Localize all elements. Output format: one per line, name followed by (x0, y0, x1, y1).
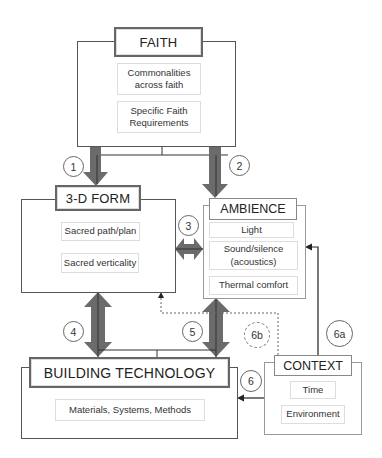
arrow-4 (84, 292, 112, 357)
link-label-3: 3 (178, 215, 199, 236)
ambience-title: AMBIENCE (209, 198, 297, 220)
arrow-6a (305, 244, 318, 356)
form-item-sacred-verticality: Sacred verticality (61, 253, 139, 273)
link-label-6: 6 (240, 370, 262, 392)
context-item-environment: Environment (281, 405, 345, 424)
form-item-sacred-path: Sacred path/plan (61, 222, 140, 241)
ambience-item-thermal: Thermal comfort (209, 276, 298, 295)
faith-item-specific-requirements: Specific Faith Requirements (117, 101, 201, 133)
technology-title: BUILDING TECHNOLOGY (29, 357, 230, 388)
link-label-4: 4 (63, 321, 84, 342)
form-group (21, 199, 176, 293)
ambience-item-sound: Sound/silence (acoustics) (209, 241, 298, 270)
link-label-5: 5 (182, 321, 203, 342)
link-label-2: 2 (229, 155, 250, 176)
arrow-3 (175, 238, 203, 260)
technology-item-materials: Materials, Systems, Methods (55, 399, 205, 421)
arrow-5 (202, 298, 230, 357)
arrow-6 (237, 395, 264, 402)
link-label-6a: 6a (326, 320, 353, 347)
form-title: 3-D FORM (55, 185, 141, 211)
context-title: CONTEXT (274, 355, 352, 376)
faith-item-commonalities: Commonalities across faith (117, 63, 201, 95)
context-item-time: Time (290, 381, 336, 399)
link-label-1: 1 (63, 156, 84, 177)
ambience-item-light: Light (209, 222, 294, 238)
link-label-6b: 6b (244, 322, 270, 348)
arrow-1 (83, 147, 108, 186)
faith-title: FAITH (114, 27, 203, 57)
